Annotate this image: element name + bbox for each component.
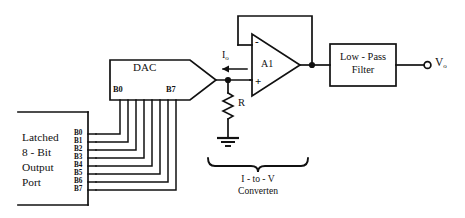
converter-caption-line-1: I - to - V [208,174,308,184]
filter-line-2: Filter [330,65,396,76]
dac-pin-b7-label: B7 [166,86,176,95]
filter-line-1: Low - Pass [330,52,396,63]
current-label-subscript: o [225,54,229,62]
dac-label: DAC [133,62,156,73]
port-line-2: 8 - Bit [22,147,51,159]
port-line-1: Latched [22,132,59,144]
opamp-noninverting-sign: + [255,76,261,87]
opamp-input-wires [238,45,252,80]
port-line-3: Output [22,162,54,174]
output-label-vo: Vo [435,57,447,70]
circuit-diagram: DAC B0 B7 Latched 8 - Bit Output Port B0… [0,0,465,218]
converter-caption-line-2: Converten [208,186,308,196]
opamp-inverting-sign: - [255,36,259,47]
ground-symbol [217,138,239,146]
converter-brace [208,158,308,172]
resistor-label: R [238,98,245,109]
output-label-subscript: o [443,62,447,70]
vo-terminal-circle [424,62,431,69]
current-label-io: Io [222,50,229,62]
port-pin-b7-label: B7 [74,186,82,193]
dac-pin-b0-label: B0 [113,86,123,95]
port-pin-stubs [88,134,96,190]
feedback-wire [238,16,312,65]
opamp-label: A1 [261,59,273,69]
resistor-branch [223,80,233,138]
current-arrow-io [222,66,247,73]
dac-block [110,60,216,100]
data-bus-wires [96,100,176,190]
port-line-4: Port [22,177,41,189]
